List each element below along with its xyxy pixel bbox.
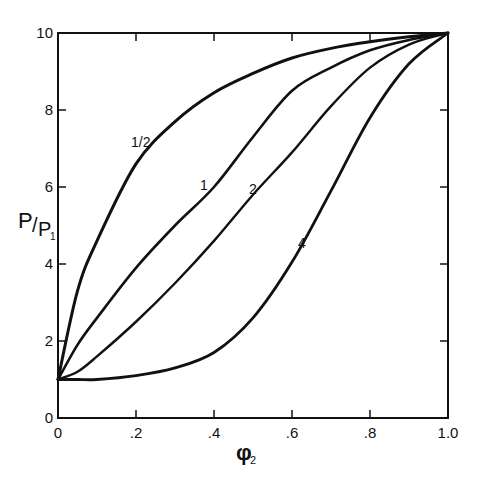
y-tick-label: 8 [45, 101, 53, 118]
y-axis-label-subscript: 1 [50, 231, 56, 242]
curve-4 [58, 33, 448, 380]
curve-label: 1/2 [131, 134, 151, 150]
x-axis-label: φ 2 [236, 440, 256, 466]
y-tick-label: 0 [45, 409, 53, 426]
curve-labels: 1/2124 [131, 134, 306, 251]
x-axis-label-subscript: 2 [250, 454, 256, 466]
curve-label: 1 [200, 177, 208, 193]
axis-ticks [58, 33, 448, 418]
x-tick-label: .4 [208, 424, 221, 441]
x-tick-label: .6 [286, 424, 299, 441]
x-tick-label: .2 [130, 424, 143, 441]
plot-frame [58, 33, 448, 418]
y-tick-label: 6 [45, 178, 53, 195]
x-tick-label: 1.0 [438, 424, 459, 441]
curve-1-2 [58, 33, 448, 380]
y-axis-label: P / P 1 [18, 208, 56, 242]
chart: 0.2.4.6.81.00246810 1/2124 P / P 1 φ 2 [0, 0, 477, 487]
curves [58, 33, 448, 380]
y-tick-label: 2 [45, 332, 53, 349]
curve-label: 2 [249, 181, 257, 197]
curve-2 [58, 33, 448, 380]
x-tick-label: 0 [54, 424, 62, 441]
y-axis-label-p: P [18, 208, 33, 233]
x-tick-label: .8 [364, 424, 377, 441]
curve-1 [58, 33, 448, 380]
curve-label: 4 [298, 235, 306, 251]
y-tick-label: 4 [45, 255, 53, 272]
y-tick-label: 10 [36, 24, 53, 41]
